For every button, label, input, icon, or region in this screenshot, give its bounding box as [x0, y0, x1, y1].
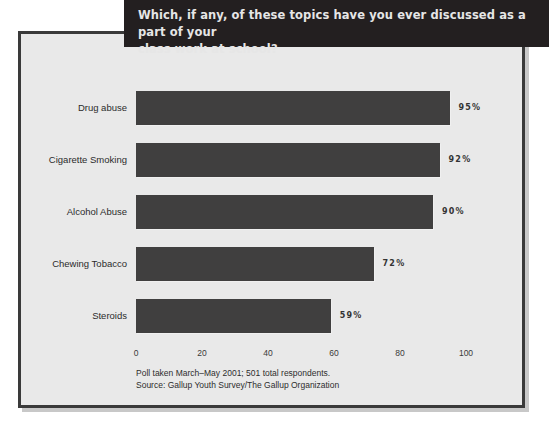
bar-value-label: 72%: [383, 247, 406, 281]
bar-row: Drug abuse95%: [136, 82, 466, 134]
bar: [136, 195, 433, 229]
bar-value-label: 92%: [449, 143, 472, 177]
x-axis-tick-label: 60: [329, 348, 338, 358]
bar-value-label: 59%: [340, 299, 363, 333]
bar-category-label: Drug abuse: [78, 82, 127, 134]
bar: [136, 143, 440, 177]
bar: [136, 247, 374, 281]
bar-value-label: 95%: [459, 91, 482, 125]
bar-row: Alcohol Abuse90%: [136, 186, 466, 238]
x-axis: 020406080100: [136, 342, 466, 364]
bar-category-label: Cigarette Smoking: [49, 134, 127, 186]
bar-row: Cigarette Smoking92%: [136, 134, 466, 186]
plot-area: Drug abuse95%Cigarette Smoking92%Alcohol…: [136, 82, 466, 342]
chart-panel: Drug abuse95%Cigarette Smoking92%Alcohol…: [18, 31, 525, 408]
x-axis-tick-label: 40: [263, 348, 272, 358]
bar: [136, 91, 450, 125]
bar-track: 92%: [136, 143, 466, 177]
bar-track: 95%: [136, 91, 466, 125]
x-axis-tick-label: 0: [134, 348, 139, 358]
bar-row: Chewing Tobacco72%: [136, 238, 466, 290]
title-banner: Which, if any, of these topics have you …: [124, 0, 549, 47]
x-axis-tick-label: 20: [197, 348, 206, 358]
bar-category-label: Steroids: [92, 290, 127, 342]
bar-track: 90%: [136, 195, 466, 229]
bar-category-label: Alcohol Abuse: [67, 186, 127, 238]
chart-footnote: Poll taken March–May 2001; 501 total res…: [136, 367, 476, 391]
footnote-line-1: Poll taken March–May 2001; 501 total res…: [136, 367, 476, 379]
bar-track: 72%: [136, 247, 466, 281]
chart-title-line-2: class work at school?: [138, 41, 535, 58]
bar-value-label: 90%: [442, 195, 465, 229]
bar-track: 59%: [136, 299, 466, 333]
footnote-line-2: Source: Gallup Youth Survey/The Gallup O…: [136, 379, 476, 391]
bar-category-label: Chewing Tobacco: [52, 238, 127, 290]
bar-row: Steroids59%: [136, 290, 466, 342]
chart-title-line-1: Which, if any, of these topics have you …: [138, 7, 535, 41]
x-axis-tick-label: 100: [459, 348, 473, 358]
bar: [136, 299, 331, 333]
x-axis-tick-label: 80: [395, 348, 404, 358]
